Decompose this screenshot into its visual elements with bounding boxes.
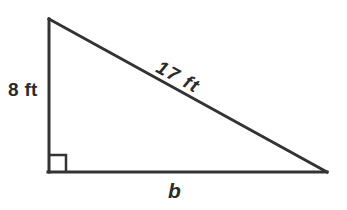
right-triangle-figure: 8 ft 17 ft b xyxy=(0,0,347,210)
right-angle-marker-icon xyxy=(49,155,66,172)
vertical-leg-label: 8 ft xyxy=(8,80,38,99)
hypotenuse-line xyxy=(49,19,327,172)
horizontal-leg-label: b xyxy=(168,180,181,201)
